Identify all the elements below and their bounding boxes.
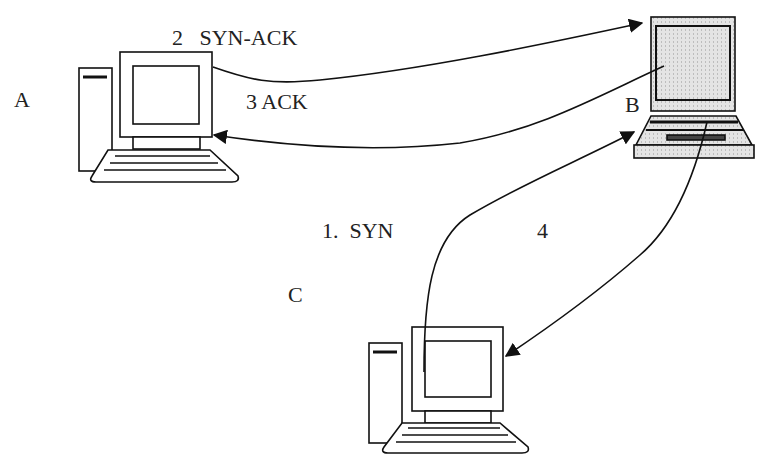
node-label-c: C	[288, 282, 303, 307]
monitor-screen	[425, 341, 491, 397]
node-label-b: B	[625, 92, 640, 117]
edge-label-syn: 1. SYN	[322, 218, 394, 243]
tower-case	[369, 343, 402, 443]
node-label-a: A	[14, 87, 30, 112]
handshake-diagram: A B C 2 SYN-ACK 3 ACK 1. SYN 4	[0, 0, 772, 468]
edge-label-4: 4	[537, 218, 548, 243]
edge-label-ack: 3 ACK	[246, 89, 308, 114]
laptop-base	[634, 145, 754, 158]
laptop-b-icon	[634, 17, 754, 158]
keyboard	[91, 150, 239, 182]
laptop-screen	[656, 26, 730, 100]
edge-label-syn-ack: 2 SYN-ACK	[172, 25, 297, 50]
monitor-screen	[133, 66, 199, 124]
computer-c-icon	[369, 327, 528, 453]
computer-a-icon	[79, 52, 238, 182]
